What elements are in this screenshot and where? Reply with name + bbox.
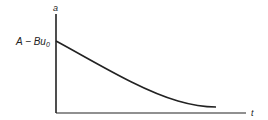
- decay-curve: [56, 41, 216, 107]
- intercept-label-main: A − Bu: [15, 36, 46, 47]
- y-axis-label: a: [53, 3, 58, 13]
- intercept-label: A − Bu0: [15, 36, 50, 48]
- x-axis-label: t: [251, 108, 254, 118]
- decay-diagram: a t A − Bu0: [0, 0, 268, 120]
- intercept-label-subscript: 0: [46, 41, 50, 48]
